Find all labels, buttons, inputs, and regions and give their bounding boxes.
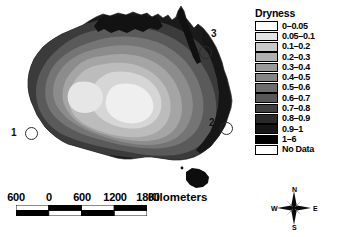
scale-bar-labels: 600 0 600 1200 1800 Kilometers — [8, 191, 243, 205]
scale-bar-graphic — [16, 205, 147, 216]
scale-seg-bottom-2 — [49, 211, 82, 217]
legend-swatch — [255, 104, 278, 114]
legend-swatch — [255, 135, 278, 145]
map-legend: Dryness 0–0.05 0.05–0.1 0.1–0.2 0.2–0.3 … — [255, 8, 337, 155]
legend-label: 0–0.05 — [282, 22, 308, 31]
scale-tick-label: 600 — [73, 191, 90, 203]
legend-swatch — [255, 63, 278, 73]
compass-label-north: N — [292, 186, 297, 193]
compass-rose: N W E S — [268, 180, 320, 234]
scale-seg-bottom-1 — [16, 211, 49, 217]
legend-swatch — [255, 32, 278, 42]
legend-row: 0.2–0.3 — [255, 52, 337, 62]
legend-swatch-no-data — [255, 145, 278, 155]
legend-swatch — [255, 93, 278, 103]
site-label-2: 2 — [209, 118, 215, 128]
legend-row: 0.4–0.5 — [255, 72, 337, 82]
compass-point-south — [291, 208, 296, 225]
compass-point-west — [277, 205, 294, 210]
compass-label-east: E — [313, 205, 318, 212]
legend-label: 0.4–0.5 — [282, 73, 310, 82]
scale-bar: 600 0 600 1200 1800 Kilometers — [8, 191, 243, 205]
scale-tick-label: 600 — [7, 191, 24, 203]
legend-row: 0.9–1 — [255, 124, 337, 134]
scale-seg-top-2 — [49, 205, 82, 211]
legend-row: 0–0.05 — [255, 21, 337, 31]
dryness-map: 1 2 3 — [0, 0, 250, 190]
compass-label-west: W — [271, 205, 278, 212]
legend-label: 0.6–0.7 — [282, 94, 310, 103]
legend-label: 1–6 — [282, 135, 296, 144]
legend-swatch — [255, 21, 278, 31]
legend-label: 0.2–0.3 — [282, 53, 310, 62]
legend-row: 0.6–0.7 — [255, 93, 337, 103]
legend-row: 0.3–0.4 — [255, 62, 337, 72]
site-marker-1[interactable] — [25, 127, 38, 140]
legend-swatch — [255, 124, 278, 134]
offshore-islet — [181, 167, 184, 170]
tasmania-island — [186, 168, 209, 188]
legend-swatch — [255, 73, 278, 83]
legend-label: 0.5–0.6 — [282, 83, 310, 92]
legend-row: 0.1–0.2 — [255, 42, 337, 52]
scale-seg-bottom-4 — [114, 211, 147, 217]
legend-title: Dryness — [255, 8, 337, 19]
legend-row-no-data: No Data — [255, 145, 337, 155]
legend-label: 0.1–0.2 — [282, 42, 310, 51]
compass-label-south: S — [292, 224, 297, 231]
legend-swatch — [255, 42, 278, 52]
legend-row: 0.05–0.1 — [255, 31, 337, 41]
legend-row: 0.5–0.6 — [255, 83, 337, 93]
legend-label: 0.9–1 — [282, 125, 303, 134]
legend-row: 0.8–0.9 — [255, 114, 337, 124]
dryness-band-0-000-west — [68, 81, 103, 112]
legend-label-no-data: No Data — [282, 145, 314, 154]
scale-tick-label: 0 — [46, 191, 52, 203]
legend-swatch — [255, 83, 278, 93]
scale-seg-top-3 — [82, 205, 115, 211]
scale-tick-label: 1200 — [103, 191, 126, 203]
scale-seg-top-4 — [114, 205, 147, 211]
scale-units-label: Kilometers — [148, 191, 207, 203]
scale-seg-top-1 — [16, 205, 49, 211]
compass-center — [292, 206, 295, 209]
figure-panel: 1 2 3 Dryness 0–0.05 0.05–0.1 0.1–0.2 0.… — [0, 0, 337, 237]
legend-label: 0.7–0.8 — [282, 104, 310, 113]
legend-label: 0.3–0.4 — [282, 63, 310, 72]
legend-label: 0.8–0.9 — [282, 114, 310, 123]
site-label-3: 3 — [211, 29, 217, 39]
site-marker-3[interactable] — [199, 46, 212, 59]
legend-swatch — [255, 52, 278, 62]
scale-seg-bottom-3 — [82, 211, 115, 217]
site-label-1: 1 — [11, 128, 17, 138]
legend-row: 1–6 — [255, 134, 337, 144]
site-marker-2[interactable] — [220, 122, 233, 135]
legend-label: 0.05–0.1 — [282, 32, 315, 41]
legend-swatch — [255, 114, 278, 124]
legend-row: 0.7–0.8 — [255, 103, 337, 113]
